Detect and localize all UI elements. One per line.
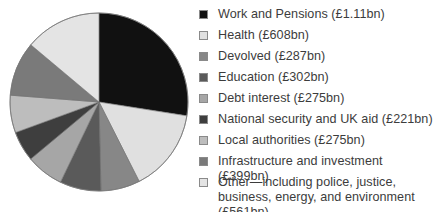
legend-item-work-and-pensions: Work and Pensions (£1.11bn) xyxy=(198,7,436,28)
legend-swatch-icon xyxy=(199,136,208,145)
pie-slice-work-and xyxy=(99,13,188,116)
legend-swatch-icon xyxy=(199,52,208,61)
legend-item-health: Health (£608bn) xyxy=(198,28,436,49)
legend-label: Education (£302bn) xyxy=(218,70,329,85)
legend-swatch-icon xyxy=(199,10,208,19)
legend-swatch-icon xyxy=(199,115,208,124)
pie-chart-svg xyxy=(0,0,200,212)
legend-label: National security and UK aid (£221bn) xyxy=(218,112,433,127)
legend-label: Local authorities (£275bn) xyxy=(218,133,365,148)
legend-item-national-security: National security and UK aid (£221bn) xyxy=(198,112,436,133)
legend-label: Health (£608bn) xyxy=(218,28,309,43)
legend-label: Debt interest (£275bn) xyxy=(218,91,344,106)
legend-item-debt-interest: Debt interest (£275bn) xyxy=(198,91,436,112)
legend-item-local-authorities: Local authorities (£275bn) xyxy=(198,133,436,154)
legend-swatch-icon xyxy=(199,178,208,187)
legend-label: Other—including police, justice, busines… xyxy=(218,175,436,212)
legend-item-education: Education (£302bn) xyxy=(198,70,436,91)
legend-item-infrastructure: Infrastructure and investment (£399bn) xyxy=(198,154,436,175)
legend-item-devolved: Devolved (£287bn) xyxy=(198,49,436,70)
legend-swatch-icon xyxy=(199,31,208,40)
legend-item-other: Other—including police, justice, busines… xyxy=(198,175,436,212)
legend-swatch-icon xyxy=(199,94,208,103)
pie-chart xyxy=(0,0,200,212)
chart-legend: Work and Pensions (£1.11bn) Health (£608… xyxy=(198,7,436,212)
legend-label: Work and Pensions (£1.11bn) xyxy=(218,7,385,22)
legend-swatch-icon xyxy=(199,73,208,82)
legend-label: Devolved (£287bn) xyxy=(218,49,325,64)
legend-swatch-icon xyxy=(199,157,208,166)
